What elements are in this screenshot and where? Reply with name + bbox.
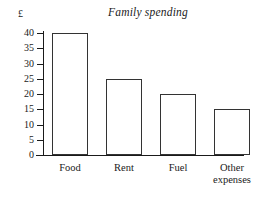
y-axis-tick <box>37 125 43 126</box>
y-axis-tick <box>37 155 43 156</box>
bar-fuel <box>160 94 196 155</box>
y-axis-tick-label: 35 <box>0 43 34 53</box>
y-axis-tick-label: 0 <box>0 150 34 160</box>
y-axis-tick-label: 30 <box>0 59 34 69</box>
y-axis-tick-label: 10 <box>0 120 34 130</box>
y-axis-tick <box>37 48 43 49</box>
y-axis-line <box>43 31 44 156</box>
y-axis-tick <box>37 64 43 65</box>
y-axis-tick-label: 20 <box>0 89 34 99</box>
bar-other-expenses <box>214 109 250 155</box>
y-axis-tick-label: 15 <box>0 104 34 114</box>
x-axis-line <box>36 155 244 156</box>
bar-chart: Family spending £ 0510152025303540 FoodR… <box>0 0 257 198</box>
x-axis-label-other-expenses: Other expenses <box>200 162 257 186</box>
bar-rent <box>106 79 142 155</box>
bar-food <box>52 33 88 155</box>
y-axis-tick <box>37 33 43 34</box>
y-axis-tick-label: 25 <box>0 74 34 84</box>
y-axis-tick <box>37 94 43 95</box>
y-axis-tick <box>37 109 43 110</box>
y-axis-tick <box>37 140 43 141</box>
plot-area: 0510152025303540 FoodRentFuelOther expen… <box>0 0 257 198</box>
y-axis-tick <box>37 79 43 80</box>
y-axis-tick-label: 5 <box>0 135 34 145</box>
y-axis-tick-label: 40 <box>0 28 34 38</box>
